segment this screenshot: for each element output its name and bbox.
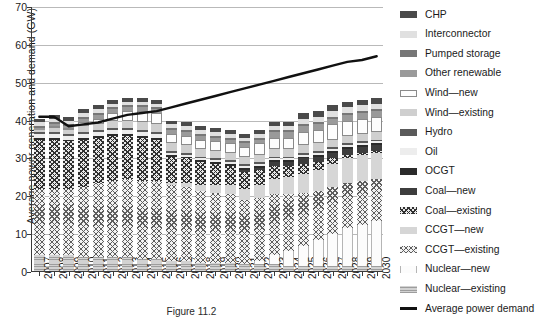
bar-segment-windnew (151, 113, 162, 124)
legend-item-oil[interactable]: Oil (400, 142, 536, 162)
bar-segment-windnew (357, 119, 368, 134)
bar-segment-inter (283, 126, 294, 130)
bar-2028[interactable] (342, 7, 353, 272)
x-axis-tick-mark (201, 272, 202, 276)
legend-label: CCGT—new (425, 225, 483, 235)
bar-segment-windex (63, 130, 74, 134)
bar-segment-ccgtnew (327, 164, 338, 187)
legend-swatch-line (400, 307, 417, 310)
bar-segment-hydro (283, 157, 294, 159)
bar-2018[interactable] (195, 7, 206, 272)
bar-segment-windnew (254, 143, 265, 154)
legend-swatch-ccgtex (400, 246, 417, 253)
legend-swatch-nucnew (400, 266, 417, 273)
bar-segment-pumped (93, 113, 104, 115)
legend-label: Coal—new (425, 186, 475, 196)
bar-2021[interactable] (239, 7, 250, 272)
bar-segment-hydro (137, 130, 148, 132)
y-axis-tick-mark (27, 7, 31, 8)
x-axis-tick-mark (274, 272, 275, 276)
bar-segment-coalnew (327, 153, 338, 159)
bar-segment-chp (239, 134, 250, 138)
bar-2009[interactable] (63, 7, 74, 272)
bar-segment-chp (283, 122, 294, 126)
bar-2025[interactable] (298, 7, 309, 272)
x-axis-tick-mark (127, 272, 128, 276)
bar-segment-windex (122, 121, 133, 129)
bar-2007[interactable] (34, 7, 45, 272)
legend-item-chp[interactable]: CHP (400, 5, 536, 25)
bar-2020[interactable] (225, 7, 236, 272)
legend-item-windex[interactable]: Wind—existing (400, 103, 536, 123)
bar-segment-coalnew (357, 147, 368, 153)
legend-swatch-nucex (400, 286, 417, 293)
x-axis-tick-mark (186, 272, 187, 276)
legend-swatch-hydro (400, 129, 417, 136)
bar-segment-chp (195, 126, 206, 130)
bar-segment-pumped (239, 141, 250, 143)
bar-2030[interactable] (371, 7, 382, 272)
bar-2027[interactable] (327, 7, 338, 272)
bar-2013[interactable] (122, 7, 133, 272)
bar-segment-other (254, 140, 265, 144)
legend-item-ccgtnew[interactable]: CCGT—new (400, 221, 536, 241)
bar-segment-coalex (371, 151, 382, 153)
bar-2022[interactable] (254, 7, 265, 272)
bar-2026[interactable] (313, 7, 324, 272)
legend-item-line[interactable]: Average power demand (400, 299, 536, 319)
bar-2024[interactable] (283, 7, 294, 272)
bar-2017[interactable] (181, 7, 192, 272)
bar-segment-other (357, 113, 368, 119)
bar-segment-ocgt (34, 138, 45, 140)
legend-label: Hydro (425, 127, 452, 137)
bar-segment-windex (195, 149, 206, 157)
bar-segment-ccgtex (181, 187, 192, 261)
legend-item-hydro[interactable]: Hydro (400, 123, 536, 143)
bar-segment-inter (210, 132, 221, 136)
bar-2008[interactable] (49, 7, 60, 272)
legend-item-inter[interactable]: Interconnector (400, 25, 536, 45)
bar-segment-inter (254, 134, 265, 138)
bar-segment-windex (342, 136, 353, 144)
bar-2012[interactable] (107, 7, 118, 272)
bar-segment-oil (166, 153, 177, 155)
bar-2019[interactable] (210, 7, 221, 272)
legend-item-nucex[interactable]: Nuclear—existing (400, 279, 536, 299)
bar-2023[interactable] (269, 7, 280, 272)
legend-item-coalnew[interactable]: Coal—new (400, 181, 536, 201)
bar-segment-windex (283, 149, 294, 157)
y-axis-tick-mark (27, 158, 31, 159)
legend-item-coalex[interactable]: Coal—existing (400, 201, 536, 221)
legend-item-nucnew[interactable]: Nuclear—new (400, 260, 536, 280)
bar-segment-coalex (151, 140, 162, 182)
bar-segment-coalnew (239, 170, 250, 172)
legend-item-windnew[interactable]: Wind—new (400, 83, 536, 103)
bar-segment-oil (254, 164, 265, 166)
bar-segment-windex (357, 134, 368, 142)
bar-segment-ccgtnew (210, 185, 221, 193)
legend-item-other[interactable]: Other renewable (400, 64, 536, 84)
x-axis-tick-mark (69, 272, 70, 276)
y-axis-tick-label: 40 (15, 115, 27, 127)
legend-label: Oil (425, 147, 438, 157)
bar-2011[interactable] (93, 7, 104, 272)
y-axis-tick-mark (27, 83, 31, 84)
bar-segment-coalex (357, 153, 368, 155)
bar-segment-other (137, 107, 148, 111)
legend-item-ccgtex[interactable]: CCGT—existing (400, 240, 536, 260)
bar-2014[interactable] (137, 7, 148, 272)
bar-segment-coalnew (313, 157, 324, 163)
bar-segment-ccgtex (371, 179, 382, 221)
bar-segment-ocgt (78, 138, 89, 140)
legend-item-pumped[interactable]: Pumped storage (400, 44, 536, 64)
bar-segment-ccgtnew (371, 153, 382, 180)
bar-segment-chp (342, 102, 353, 108)
bar-2015[interactable] (151, 7, 162, 272)
bar-segment-ccgtnew (239, 189, 250, 200)
legend-item-ocgt[interactable]: OCGT (400, 162, 536, 182)
bar-2010[interactable] (78, 7, 89, 272)
bar-segment-inter (63, 121, 74, 125)
y-axis-tick-label: 10 (15, 228, 27, 240)
bar-2029[interactable] (357, 7, 368, 272)
bar-2016[interactable] (166, 7, 177, 272)
